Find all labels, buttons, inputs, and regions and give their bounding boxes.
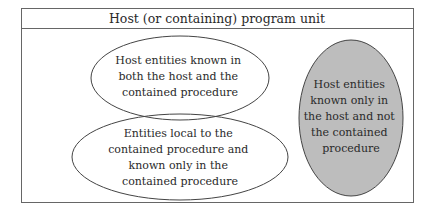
local-line-3: known only in the <box>129 159 228 172</box>
host-only-line-4: the contained <box>311 126 388 139</box>
host-only-line-1: Host entities <box>314 78 386 91</box>
host-only-ellipse: Host entities known only in the host and… <box>299 40 403 196</box>
scoping-diagram: Host (or containing) program unit Host e… <box>0 0 435 213</box>
host-only-line-5: procedure <box>322 142 380 155</box>
shared-line-3: contained procedure <box>122 86 238 99</box>
local-line-4: contained procedure <box>122 175 238 188</box>
local-line-2: contained procedure and <box>108 143 248 156</box>
local-line-1: Entities local to the <box>124 127 233 140</box>
host-only-line-2: known only in <box>310 94 388 107</box>
host-only-line-3: the host and not <box>304 110 396 123</box>
shared-line-1: Host entities known in <box>115 54 241 67</box>
box-title: Host (or containing) program unit <box>109 11 325 26</box>
shared-line-2: both the host and the <box>118 70 238 83</box>
svg-text:Host entities known in b: Host entities known in both the host and… <box>115 54 244 99</box>
